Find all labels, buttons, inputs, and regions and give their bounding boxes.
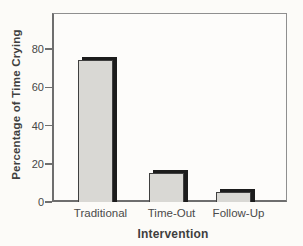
y-tick-label-0: 0 [18, 195, 44, 209]
y-tick-mark-80 [45, 48, 52, 50]
y-tick-label-80: 80 [18, 42, 44, 56]
x-axis-title: Intervention [93, 227, 253, 241]
y-tick-mark-20 [45, 163, 52, 165]
bar-time-out [149, 173, 184, 202]
bar-follow-up [216, 192, 251, 202]
y-tick-label-60: 60 [18, 80, 44, 94]
y-tick-label-20: 20 [18, 157, 44, 171]
y-tick-mark-40 [45, 125, 52, 127]
y-tick-mark-60 [45, 87, 52, 89]
y-tick-label-40: 40 [18, 119, 44, 133]
x-category-label-traditional: Traditional [61, 206, 141, 220]
bar-chart-figure: Percentage of Time Crying 020406080Tradi… [0, 0, 303, 246]
y-tick-mark-0 [45, 201, 52, 203]
x-category-label-follow-up: Follow-Up [199, 206, 279, 220]
bar-traditional [78, 60, 113, 202]
